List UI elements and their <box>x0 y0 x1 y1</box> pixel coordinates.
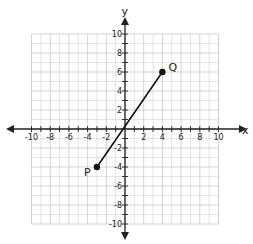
x-tick-label: 4 <box>160 133 165 142</box>
x-tick-label: -8 <box>46 133 54 142</box>
y-tick-label: 8 <box>117 49 122 58</box>
x-tick-label: 8 <box>197 133 202 142</box>
y-tick-label: -8 <box>114 201 122 210</box>
y-axis-up-arrow-icon <box>121 17 129 25</box>
point-label-q: Q <box>168 61 177 74</box>
y-axis-down-arrow-icon <box>121 232 129 240</box>
x-tick-label: -2 <box>102 133 110 142</box>
y-tick-label: 6 <box>117 68 122 77</box>
x-tick-label: 6 <box>179 133 184 142</box>
x-tick-label: -10 <box>25 133 38 142</box>
point-marker-q <box>159 69 165 75</box>
y-tick-label: 2 <box>117 106 122 115</box>
x-tick-label: -6 <box>65 133 73 142</box>
y-axis-label: y <box>122 5 129 18</box>
point-marker-p <box>94 164 100 170</box>
x-axis-left-arrow-icon <box>6 125 14 133</box>
y-tick-label: -2 <box>114 144 122 153</box>
y-tick-label: -6 <box>114 182 122 191</box>
y-tick-label: 10 <box>112 30 122 39</box>
y-tick-label: -10 <box>109 220 122 229</box>
coordinate-plane: xy -10-8-6-4-2246810108642-2-4-6-8-10 PQ <box>0 0 253 244</box>
point-label-p: P <box>84 166 91 179</box>
x-tick-label: -4 <box>84 133 92 142</box>
y-tick-label: 4 <box>117 87 122 96</box>
x-tick-label: 10 <box>213 133 223 142</box>
segment-pq: PQ <box>84 61 177 179</box>
x-axis-label: x <box>242 124 249 137</box>
x-tick-label: 2 <box>141 133 146 142</box>
y-tick-label: -4 <box>114 163 122 172</box>
